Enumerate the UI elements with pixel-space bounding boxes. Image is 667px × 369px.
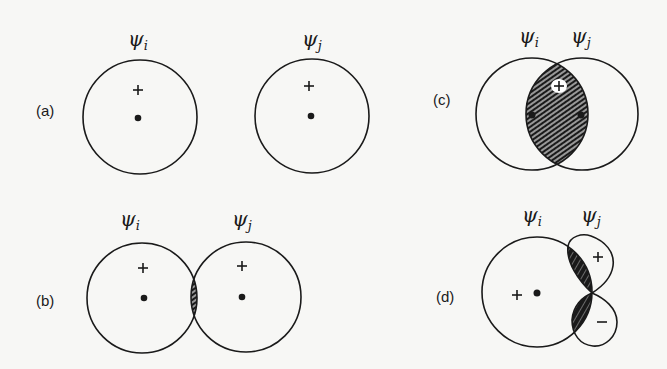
nucleus-dot-icon <box>529 112 536 119</box>
panel-label-c: (c) <box>433 91 451 108</box>
plus-sign-icon <box>138 263 148 273</box>
orbital-psi-j-a: ψj <box>255 27 369 173</box>
psi-j-label-d: ψj <box>581 203 601 229</box>
orbital-psi-j-b: ψj <box>191 207 301 352</box>
psi-j-label-b: ψj <box>232 207 252 233</box>
psi-i-label-d: ψi <box>522 203 542 229</box>
nucleus-dot-icon <box>534 290 541 297</box>
nucleus-dot-icon <box>308 113 315 120</box>
nucleus-dot-icon <box>239 294 246 301</box>
panel-label-b: (b) <box>36 292 54 309</box>
nucleus-dot-icon <box>135 115 142 122</box>
nucleus-dot-icon <box>578 112 585 119</box>
overlap-region-positive <box>568 235 613 293</box>
plus-sign-icon <box>512 290 522 300</box>
plus-sign-icon <box>593 252 603 262</box>
orbital-psi-i-a: ψi <box>83 27 197 174</box>
psi-j-label-a: ψj <box>302 27 322 53</box>
panel-a: (a) ψi ψj <box>36 27 369 174</box>
orbital-overlap-diagram: (a) ψi ψj (b) ψi <box>0 0 667 369</box>
psi-i-label-c: ψi <box>519 24 539 50</box>
panel-d: (d) ψi ψj <box>436 203 617 347</box>
panel-c: (c) ψi ψj <box>433 24 638 170</box>
plus-sign-icon <box>133 85 143 95</box>
psi-i-label-a: ψi <box>128 27 148 53</box>
orbital-boundary <box>191 242 301 352</box>
plus-sign-icon <box>237 261 247 271</box>
panel-label-a: (a) <box>36 102 54 119</box>
panel-b: (b) ψi ψj <box>36 207 301 353</box>
nucleus-dot-icon <box>141 295 148 302</box>
plus-sign-icon <box>304 81 314 91</box>
panel-label-d: (d) <box>436 288 454 305</box>
orbital-psi-i-b: ψi <box>87 207 197 353</box>
psi-i-label-b: ψi <box>120 207 140 233</box>
psi-j-label-c: ψj <box>571 24 591 50</box>
